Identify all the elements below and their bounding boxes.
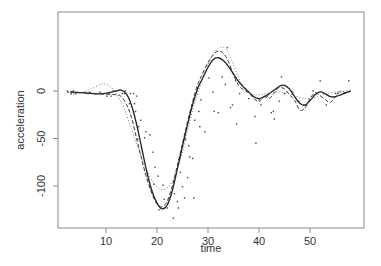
data-point (254, 116, 255, 117)
data-point (266, 95, 267, 96)
data-point (236, 123, 237, 124)
data-point (75, 93, 76, 94)
data-point (137, 139, 138, 140)
y-axis-label: acceleration (14, 90, 26, 149)
data-point (125, 90, 126, 91)
data-point (67, 90, 68, 91)
data-point (133, 112, 134, 113)
data-point (88, 93, 89, 94)
data-point (200, 99, 201, 100)
data-point (320, 80, 321, 81)
x-axis-label: time (201, 242, 222, 254)
data-point (284, 93, 285, 94)
data-point (163, 199, 164, 200)
data-point (192, 158, 193, 159)
data-point (271, 112, 272, 113)
data-point (279, 100, 280, 101)
data-point (193, 197, 194, 198)
data-point (162, 184, 163, 185)
smooth-solid-line (70, 58, 351, 209)
data-point (152, 151, 153, 152)
data-point (222, 76, 223, 77)
data-point (258, 99, 259, 100)
data-point (138, 126, 139, 127)
data-point (185, 139, 186, 140)
data-point (187, 177, 188, 178)
data-point (273, 111, 274, 112)
data-point (105, 93, 106, 94)
data-point (199, 126, 200, 127)
data-point (227, 47, 228, 48)
data-point (303, 104, 304, 105)
data-point (145, 131, 146, 132)
data-point (260, 104, 261, 105)
data-point (89, 92, 90, 93)
data-point (239, 93, 240, 94)
data-point (337, 93, 338, 94)
data-point (106, 95, 107, 96)
smooth-dashed-line (70, 51, 351, 207)
data-point (134, 103, 135, 104)
data-point (234, 76, 235, 77)
series-layer (70, 47, 351, 209)
data-point (108, 93, 109, 94)
y-tick-label: -50 (35, 131, 47, 147)
data-point (136, 95, 137, 96)
data-point (182, 186, 183, 187)
data-point (208, 77, 209, 78)
data-point (135, 111, 136, 112)
data-point (149, 134, 150, 135)
data-point (235, 80, 236, 81)
data-point (232, 104, 233, 105)
data-point (298, 100, 299, 101)
data-point (248, 98, 249, 99)
data-point (348, 80, 349, 81)
data-point (194, 120, 195, 121)
y-tick-label: 0 (35, 88, 47, 94)
data-point (157, 175, 158, 176)
data-point (218, 112, 219, 113)
data-point (170, 197, 171, 198)
data-point (177, 201, 178, 202)
data-point (180, 172, 181, 173)
data-point (110, 95, 111, 96)
x-tick-label: 40 (253, 235, 265, 247)
data-point (173, 218, 174, 219)
data-point (326, 104, 327, 105)
x-tick-label: 10 (100, 235, 112, 247)
data-point (103, 93, 104, 94)
data-point (73, 90, 74, 91)
data-point (130, 93, 131, 94)
data-point (96, 93, 97, 94)
data-point (292, 92, 293, 93)
data-point (178, 207, 179, 208)
data-point (167, 207, 168, 208)
chart-canvas: 1020304050 0-50-100 time acceleration (0, 0, 381, 266)
data-point (312, 90, 313, 91)
data-point (174, 193, 175, 194)
data-point (86, 93, 87, 94)
data-point (124, 93, 125, 94)
data-point (225, 84, 226, 85)
data-point (335, 93, 336, 94)
scatter-points (67, 47, 350, 219)
data-point (230, 107, 231, 108)
data-point (68, 92, 69, 93)
data-point (184, 197, 185, 198)
data-point (255, 142, 256, 143)
smooth-dotted-line (70, 47, 351, 190)
x-tick-label: 20 (151, 235, 163, 247)
data-point (198, 111, 199, 112)
data-point (153, 183, 154, 184)
data-point (212, 92, 213, 93)
data-point (122, 93, 123, 94)
data-point (71, 93, 72, 94)
data-point (154, 167, 155, 168)
data-point (94, 93, 95, 94)
data-point (129, 103, 130, 104)
data-point (204, 131, 205, 132)
x-tick-label: 50 (304, 235, 316, 247)
data-point (99, 92, 100, 93)
data-point (213, 111, 214, 112)
plot-frame (58, 12, 364, 228)
